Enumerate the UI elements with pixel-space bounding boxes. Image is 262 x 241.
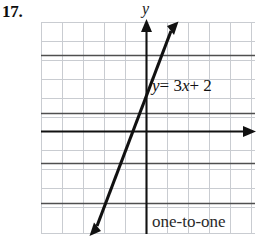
equation-label: y= 3x+ 2 (152, 76, 212, 96)
equation-rhs: + 2 (189, 76, 211, 95)
x-axis (41, 126, 256, 137)
grid-emphasized-lines (41, 56, 255, 204)
equation-lhs: y (152, 76, 160, 95)
figure-panel: 17. y (0, 0, 262, 241)
answer-label: one-to-one (152, 212, 226, 232)
y-axis (141, 19, 152, 234)
grid-horizontal-lines (41, 23, 255, 234)
coordinate-plane-graph (0, 0, 262, 241)
equation-equals: = 3 (160, 76, 182, 95)
